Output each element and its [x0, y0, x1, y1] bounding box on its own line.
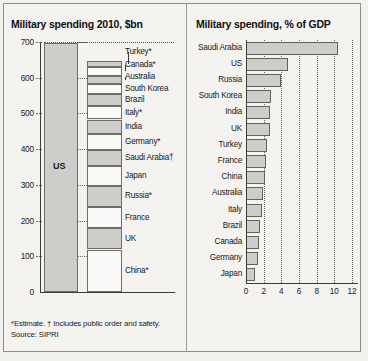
stack-segment-label: South Korea — [125, 84, 168, 93]
stack-segment-label: India — [125, 122, 142, 131]
left-y-tick-mark — [36, 221, 42, 222]
right-bar — [246, 236, 259, 249]
left-y-tick-mark — [36, 149, 42, 150]
stack-segment-label: Saudi Arabia† — [125, 153, 173, 162]
left-y-tick-label: 300 — [10, 180, 34, 190]
right-category-label: Brazil — [186, 221, 242, 230]
right-bar — [246, 90, 271, 103]
right-bar — [246, 220, 260, 233]
leader-line-vertical — [125, 77, 126, 80]
stack-segment — [87, 228, 122, 249]
right-gridline — [317, 40, 318, 283]
right-bar — [246, 187, 263, 200]
right-bar — [246, 106, 270, 119]
right-x-axis — [246, 283, 358, 284]
right-category-label: Japan — [186, 269, 242, 278]
right-gridline — [299, 40, 300, 283]
left-inner-tick-mark — [78, 149, 87, 150]
right-bar — [246, 268, 255, 281]
leader-line-vertical — [128, 52, 129, 64]
right-bar — [246, 58, 288, 71]
left-y-tick-label: 200 — [10, 216, 34, 226]
stack-segment — [87, 150, 122, 166]
right-category-label: Saudi Arabia — [186, 43, 242, 52]
stack-segment — [87, 76, 122, 85]
right-gridline — [334, 40, 335, 283]
right-x-tick-label: 10 — [327, 287, 341, 296]
stack-segment — [87, 94, 122, 106]
left-chart-panel: Military spending 2010, $bn 010020030040… — [0, 0, 186, 355]
left-chart-title: Military spending 2010, $bn — [11, 18, 143, 30]
footnote-source: Source: SIPRI — [11, 329, 58, 340]
right-chart-title: Military spending, % of GDP — [196, 18, 331, 30]
left-inner-tick-mark — [78, 221, 87, 222]
left-y-axis — [40, 42, 41, 292]
right-category-label: Canada — [186, 237, 242, 246]
stack-segment — [87, 166, 122, 186]
stacked-countries-column — [87, 42, 122, 292]
stack-segment — [87, 120, 122, 135]
stack-segment — [87, 67, 122, 75]
stack-segment-label: China* — [125, 266, 148, 275]
left-y-tick-label: 500 — [10, 108, 34, 118]
right-category-label: US — [186, 59, 242, 68]
right-bar — [246, 252, 258, 265]
stack-segment-label: Japan — [125, 171, 146, 180]
right-category-label: Italy — [186, 205, 242, 214]
stack-segment-label: Russia* — [125, 191, 152, 200]
right-bar — [246, 42, 338, 55]
right-gridline — [281, 40, 282, 283]
stack-segment — [87, 61, 122, 67]
footnote-estimate: *Estimate. † Includes public order and s… — [11, 318, 160, 329]
right-bar — [246, 204, 262, 217]
right-bar — [246, 155, 266, 168]
left-y-tick-label: 0 — [10, 287, 34, 297]
stack-segment — [87, 250, 122, 293]
stack-segment-label: Italy* — [125, 108, 142, 117]
left-inner-tick-mark — [78, 113, 87, 114]
left-x-axis — [40, 292, 175, 293]
right-category-label: Australia — [186, 188, 242, 197]
right-chart-panel: Military spending, % of GDP Saudi Arabia… — [186, 0, 368, 355]
right-bar — [246, 123, 270, 136]
left-y-tick-mark — [36, 42, 42, 43]
stack-segment — [87, 207, 122, 228]
stack-segment-label: Canada* — [125, 60, 155, 69]
stack-segment-label: Germany* — [125, 137, 160, 146]
right-x-tick-label: 6 — [292, 287, 306, 296]
left-y-tick-label: 700 — [10, 37, 34, 47]
stack-segment-label: UK — [125, 234, 136, 243]
right-x-tick-label: 2 — [257, 287, 271, 296]
right-x-tick-label: 8 — [310, 287, 324, 296]
left-y-tick-label: 600 — [10, 73, 34, 83]
left-y-tick-label: 400 — [10, 144, 34, 154]
stack-segment — [87, 134, 122, 150]
right-bar — [246, 171, 265, 184]
stack-segment-label: France — [125, 213, 149, 222]
chart-page: Military spending 2010, $bn 010020030040… — [0, 0, 368, 361]
right-category-label: Russia — [186, 75, 242, 84]
left-y-tick-mark — [36, 185, 42, 186]
stack-segment — [87, 186, 122, 207]
left-y-tick-mark — [36, 113, 42, 114]
right-x-tick-label: 4 — [274, 287, 288, 296]
right-category-label: France — [186, 156, 242, 165]
right-x-tick-label: 12 — [345, 287, 359, 296]
stack-segment — [87, 84, 122, 94]
left-inner-tick-mark — [78, 185, 87, 186]
right-category-label: Turkey — [186, 140, 242, 149]
right-y-axis — [246, 40, 247, 283]
left-y-tick-mark — [36, 256, 42, 257]
right-bar — [246, 139, 267, 152]
right-category-label: China — [186, 172, 242, 181]
left-y-tick-label: 100 — [10, 251, 34, 261]
right-x-tick-label: 0 — [239, 287, 253, 296]
leader-line-vertical — [125, 65, 126, 71]
left-y-tick-mark — [36, 78, 42, 79]
right-bar — [246, 74, 281, 87]
left-inner-tick-mark — [78, 78, 87, 79]
right-category-label: UK — [186, 124, 242, 133]
right-gridline — [352, 40, 353, 283]
stack-segment — [87, 106, 122, 119]
right-category-label: India — [186, 107, 242, 116]
